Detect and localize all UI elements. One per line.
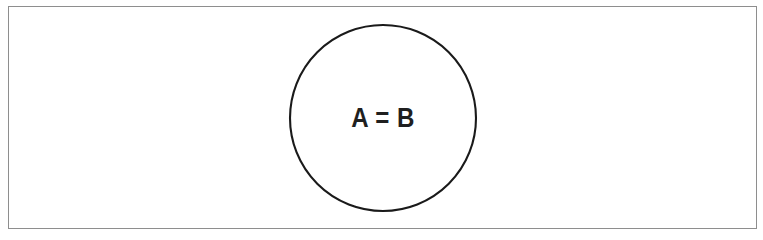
figure-canvas: A = B — [0, 0, 763, 240]
set-equality-label: A = B — [351, 104, 414, 132]
